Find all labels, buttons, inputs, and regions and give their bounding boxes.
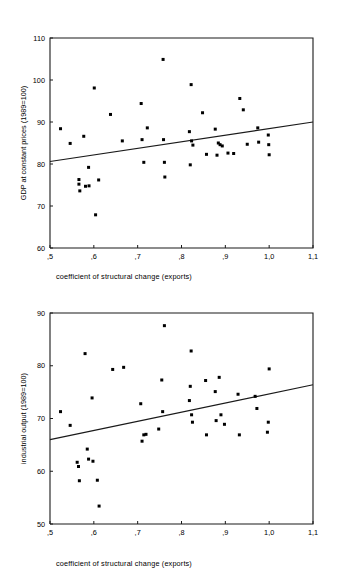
gdp-y-tick-label: 100 <box>33 76 45 85</box>
gdp-data-point <box>97 178 100 181</box>
industry-data-point <box>141 440 144 443</box>
gdp-data-point <box>221 144 224 147</box>
gdp-data-point <box>201 111 204 114</box>
industry-x-tick-label: ,6 <box>91 528 97 537</box>
industry-data-point <box>157 428 160 431</box>
gdp-data-point <box>87 166 90 169</box>
gdp-data-point <box>214 128 217 131</box>
gdp-data-point <box>246 143 249 146</box>
gdp-data-point <box>121 139 124 142</box>
gdp-trendline <box>50 122 313 161</box>
industry-data-point <box>218 376 221 379</box>
gdp-data-point <box>69 142 72 145</box>
gdp-plot-frame <box>50 38 313 248</box>
gdp-y-tick-label: 70 <box>37 202 45 211</box>
industry-data-point <box>122 366 125 369</box>
industry-data-point <box>188 399 191 402</box>
industry-data-point <box>77 465 80 468</box>
industry-data-point <box>160 378 163 381</box>
gdp-data-point <box>77 178 80 181</box>
gdp-data-point <box>93 86 96 89</box>
industry-data-point <box>190 349 193 352</box>
gdp-data-point <box>140 102 143 105</box>
gdp-data-point <box>94 213 97 216</box>
industry-x-axis-title: coefficient of structural change (export… <box>56 559 192 568</box>
gdp-data-point <box>238 97 241 100</box>
industry-data-point <box>76 461 79 464</box>
scatter-chart-gdp: 60708090100110,5,6,7,8,91,01,1GDP at con… <box>0 0 337 293</box>
industry-plot-frame <box>50 313 313 524</box>
industry-data-point <box>191 421 194 424</box>
industry-data-point <box>189 385 192 388</box>
industry-data-point <box>205 433 208 436</box>
gdp-data-point <box>256 126 259 129</box>
industry-y-tick-label: 60 <box>37 467 45 476</box>
industry-data-point <box>267 421 270 424</box>
gdp-data-point <box>163 176 166 179</box>
industry-data-point <box>255 407 258 410</box>
industry-data-point <box>98 505 101 508</box>
industry-data-point <box>237 393 240 396</box>
industry-data-point <box>96 479 99 482</box>
gdp-y-tick-label: 60 <box>37 244 45 253</box>
industry-x-tick-label: 1,1 <box>308 528 318 537</box>
gdp-x-tick-label: ,9 <box>222 252 228 261</box>
gdp-data-point <box>189 163 192 166</box>
gdp-data-point <box>226 152 229 155</box>
gdp-x-axis-title: coefficient of structural change (export… <box>56 272 192 281</box>
gdp-data-point <box>267 134 270 137</box>
industry-trendline <box>50 385 313 440</box>
industry-x-tick-label: ,9 <box>222 528 228 537</box>
industry-data-point <box>238 433 241 436</box>
gdp-data-point <box>242 108 245 111</box>
industry-y-tick-label: 90 <box>37 309 45 318</box>
gdp-data-point <box>142 161 145 164</box>
industry-data-point <box>161 410 164 413</box>
gdp-data-point <box>88 184 91 187</box>
industry-data-point <box>78 479 81 482</box>
gdp-data-point <box>162 58 165 61</box>
gdp-data-point <box>146 126 149 129</box>
gdp-y-tick-label: 90 <box>37 118 45 127</box>
industry-x-tick-label: 1,0 <box>264 528 274 537</box>
industry-data-point <box>219 413 222 416</box>
industry-y-tick-label: 80 <box>37 361 45 370</box>
industry-data-point <box>86 448 89 451</box>
industry-data-point <box>214 390 217 393</box>
gdp-data-point <box>232 152 235 155</box>
gdp-data-point <box>216 154 219 157</box>
gdp-data-point <box>205 153 208 156</box>
industry-data-point <box>254 395 257 398</box>
gdp-x-tick-label: 1,0 <box>264 252 274 261</box>
industry-data-point <box>59 410 62 413</box>
gdp-data-point <box>257 141 260 144</box>
gdp-data-point <box>267 143 270 146</box>
industry-y-tick-label: 50 <box>37 520 45 529</box>
industry-data-point <box>69 424 72 427</box>
gdp-data-point <box>163 161 166 164</box>
industry-data-point <box>84 352 87 355</box>
industry-data-point <box>268 367 271 370</box>
gdp-data-point <box>190 83 193 86</box>
gdp-plot-svg: 60708090100110,5,6,7,8,91,01,1GDP at con… <box>0 0 337 293</box>
industry-y-axis-title: industrial output (1989=100) <box>19 373 28 464</box>
gdp-x-tick-label: ,8 <box>178 252 184 261</box>
gdp-x-tick-label: 1,1 <box>308 252 318 261</box>
gdp-data-point <box>190 139 193 142</box>
gdp-data-point <box>84 185 87 188</box>
gdp-data-point <box>268 153 271 156</box>
industry-data-point <box>215 419 218 422</box>
gdp-data-point <box>59 127 62 130</box>
gdp-data-point <box>78 189 81 192</box>
gdp-data-point <box>82 135 85 138</box>
scatter-chart-industrial-output: 5060708090,5,6,7,8,91,01,1industrial out… <box>0 293 337 587</box>
industry-data-point <box>163 324 166 327</box>
industry-data-point <box>111 368 114 371</box>
industry-data-point <box>91 460 94 463</box>
gdp-x-tick-label: ,7 <box>135 252 141 261</box>
gdp-data-point <box>77 183 80 186</box>
industry-data-point <box>223 423 226 426</box>
industry-data-point <box>190 413 193 416</box>
industry-data-point <box>139 402 142 405</box>
industry-data-point <box>87 458 90 461</box>
